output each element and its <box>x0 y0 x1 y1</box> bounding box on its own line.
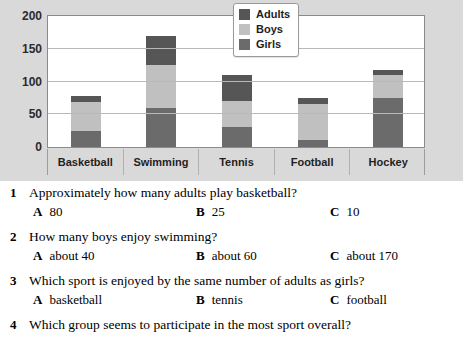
option-text: basketball <box>49 292 102 307</box>
bar-segment-hockey-boys <box>373 75 403 98</box>
option-letter: B <box>196 248 205 263</box>
option-text: tennis <box>212 292 243 307</box>
question-1-option-b[interactable]: B25 <box>196 204 225 220</box>
option-letter: A <box>33 204 42 219</box>
x-category-basketball: Basketball <box>48 149 124 175</box>
question-3-option-a[interactable]: Abasketball <box>33 292 102 308</box>
bar-segment-football-boys <box>298 104 328 140</box>
x-category-swimming: Swimming <box>124 149 200 175</box>
question-text: How many boys enjoy swimming? <box>29 229 217 245</box>
x-category-football: Football <box>275 149 351 175</box>
x-category-hockey: Hockey <box>350 149 426 175</box>
question-text: Approximately how many adults play baske… <box>29 185 297 201</box>
gridline-100 <box>48 81 424 82</box>
y-tick-100: 100 <box>0 76 42 88</box>
bar-segment-football-girls <box>298 140 328 147</box>
bar-segment-tennis-boys <box>222 101 252 127</box>
bar-chart-figure: 200150100500 AdultsBoysGirls BasketballS… <box>0 0 463 181</box>
legend-swatch-icon-girls <box>239 39 250 50</box>
legend-swatch-icon-adults <box>239 9 250 20</box>
legend-swatch-icon-boys <box>239 24 250 35</box>
bar-segment-tennis-adults <box>222 75 252 101</box>
option-text: about 60 <box>212 248 257 263</box>
x-category-tennis: Tennis <box>199 149 275 175</box>
question-number: 2 <box>10 229 17 245</box>
legend-label: Boys <box>256 24 283 35</box>
question-text: Which sport is enjoyed by the same numbe… <box>29 273 365 289</box>
option-text: about 170 <box>346 248 398 263</box>
legend-item-adults: Adults <box>239 7 290 22</box>
bar-segment-tennis-girls <box>222 127 252 147</box>
chart-legend: AdultsBoysGirls <box>233 3 299 57</box>
x-axis-category-band: BasketballSwimmingTennisFootballHockey <box>47 149 425 175</box>
gridline-50 <box>48 113 424 114</box>
option-text: about 40 <box>49 248 94 263</box>
legend-item-girls: Girls <box>239 37 290 52</box>
y-tick-50: 50 <box>0 108 42 120</box>
bar-segment-hockey-girls <box>373 98 403 147</box>
bar-segment-basketball-boys <box>71 102 101 130</box>
question-3-option-c[interactable]: Cfootball <box>330 292 387 308</box>
option-letter: A <box>33 248 42 263</box>
option-text: football <box>346 292 386 307</box>
question-1-option-c[interactable]: C10 <box>330 204 359 220</box>
bar-segment-basketball-girls <box>71 131 101 147</box>
option-text: 25 <box>212 204 225 219</box>
question-2-option-b[interactable]: Babout 60 <box>196 248 257 264</box>
y-tick-200: 200 <box>0 10 42 22</box>
option-text: 10 <box>346 204 359 219</box>
option-letter: C <box>330 204 339 219</box>
y-tick-150: 150 <box>0 43 42 55</box>
x-category-label: Basketball <box>58 157 113 168</box>
bar-segment-swimming-adults <box>146 36 176 65</box>
questions-list: 1Approximately how many adults play bask… <box>0 181 463 339</box>
question-number: 3 <box>10 273 17 289</box>
legend-label: Girls <box>256 39 281 50</box>
option-letter: C <box>330 248 339 263</box>
question-1-option-a[interactable]: A80 <box>33 204 62 220</box>
question-3-option-b[interactable]: Btennis <box>196 292 243 308</box>
x-category-label: Hockey <box>369 157 408 168</box>
question-2-option-a[interactable]: Aabout 40 <box>33 248 95 264</box>
option-letter: C <box>330 292 339 307</box>
option-text: 80 <box>49 204 62 219</box>
question-text: Which group seems to participate in the … <box>29 317 351 333</box>
x-category-label: Swimming <box>133 157 188 168</box>
y-tick-0: 0 <box>0 141 42 153</box>
bar-segment-basketball-adults <box>71 96 101 103</box>
question-number: 1 <box>10 185 17 201</box>
option-letter: B <box>196 292 205 307</box>
question-number: 4 <box>10 317 17 333</box>
option-letter: A <box>33 292 42 307</box>
y-axis-tick-labels: 200150100500 <box>0 0 46 160</box>
bar-segment-football-adults <box>298 98 328 105</box>
legend-item-boys: Boys <box>239 22 290 37</box>
x-category-label: Tennis <box>219 157 254 168</box>
option-letter: B <box>196 204 205 219</box>
bar-segment-hockey-adults <box>373 70 403 75</box>
bar-segment-swimming-boys <box>146 65 176 108</box>
x-category-label: Football <box>291 157 334 168</box>
question-2-option-c[interactable]: Cabout 170 <box>330 248 398 264</box>
legend-label: Adults <box>256 9 290 20</box>
